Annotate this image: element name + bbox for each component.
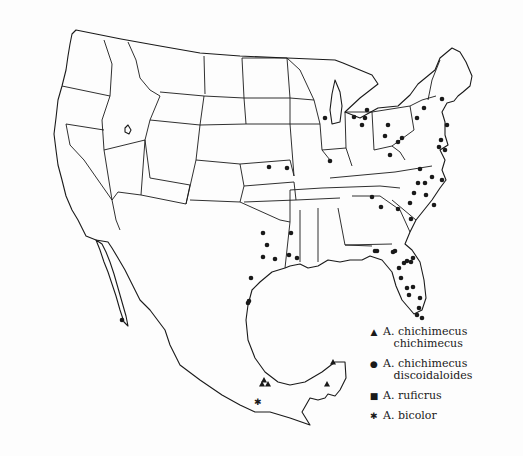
dot-marker (285, 166, 290, 171)
triangle-marker (261, 377, 267, 383)
state-borders (62, 40, 440, 268)
dot-marker (437, 145, 442, 150)
dot-marker (405, 286, 410, 291)
triangle-icon: ▲ (368, 326, 380, 338)
triangle-marker (324, 381, 330, 387)
dot-icon: ● (368, 358, 380, 370)
dot-marker (328, 159, 333, 164)
dot-marker (409, 260, 414, 265)
dot-marker (120, 318, 125, 323)
dot-marker (400, 136, 405, 141)
dot-marker (412, 191, 417, 196)
legend-label: A. bicolor (383, 410, 437, 422)
dot-marker (365, 108, 370, 113)
dot-marker (396, 207, 401, 212)
dot-marker (267, 165, 272, 170)
dot-marker (422, 106, 427, 111)
legend-label: A. ruficrus (383, 390, 442, 402)
dot-marker (411, 256, 416, 261)
asterisk-icon: ✱ (368, 410, 380, 422)
baja-california-outline (96, 240, 128, 326)
dot-marker (323, 116, 328, 121)
dot-marker (289, 231, 294, 236)
dot-marker (440, 97, 445, 102)
dot-marker (273, 257, 278, 262)
legend-label: A. chichimecus chichimecus (383, 326, 467, 350)
legend-item-ruficrus: ■ A. ruficrus (368, 390, 518, 402)
dot-marker (247, 299, 252, 304)
dot-marker (430, 175, 435, 180)
dot-marker (445, 123, 450, 128)
dot-marker (295, 256, 300, 261)
dot-marker (418, 167, 423, 172)
dot-marker (396, 140, 401, 145)
dot-marker (383, 134, 388, 139)
dot-marker (265, 243, 270, 248)
dot-marker (417, 306, 422, 311)
dot-marker (418, 296, 423, 301)
legend: ▲ A. chichimecus chichimecus ● A. chichi… (368, 326, 518, 430)
dot-marker (439, 138, 444, 143)
dot-marker (411, 285, 416, 290)
dot-marker (423, 181, 428, 186)
legend-item-bicolor: ✱ A. bicolor (368, 410, 518, 422)
dot-marker (388, 153, 393, 158)
dot-marker (407, 293, 412, 298)
dot-marker (416, 181, 421, 186)
dot-marker (393, 249, 398, 254)
dot-marker (287, 253, 292, 258)
square-icon: ■ (368, 390, 380, 402)
dot-marker (415, 116, 420, 121)
dot-marker (399, 276, 404, 281)
dot-marker (363, 116, 368, 121)
asterisk-marker: ✱ (254, 397, 262, 407)
dot-marker (249, 276, 254, 281)
dot-marker (261, 231, 266, 236)
dot-marker (352, 115, 357, 120)
dot-marker (440, 178, 445, 183)
dot-marker (443, 148, 448, 153)
dot-marker (379, 205, 384, 210)
legend-label: A. chichimecus discoidaloides (383, 358, 472, 382)
great-salt-lake (125, 125, 131, 134)
dot-marker (432, 203, 437, 208)
dot-marker (402, 261, 407, 266)
dot-marker (360, 123, 365, 128)
dot-marker (373, 249, 378, 254)
legend-item-discoidaloides: ● A. chichimecus discoidaloides (368, 358, 518, 382)
lake-michigan (330, 80, 342, 124)
dot-marker (370, 195, 375, 200)
dot-marker (420, 316, 425, 321)
dot-marker (415, 313, 420, 318)
dot-marker (261, 255, 266, 260)
dot-marker (409, 217, 414, 222)
legend-item-chichimecus: ▲ A. chichimecus chichimecus (368, 326, 518, 350)
dot-marker (397, 266, 402, 271)
dot-marker (408, 201, 413, 206)
dot-marker (386, 123, 391, 128)
dot-marker (424, 193, 429, 198)
